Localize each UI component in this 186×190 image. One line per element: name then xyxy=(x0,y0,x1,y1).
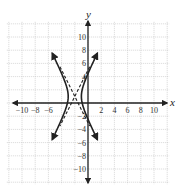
x-tick-label: 10 xyxy=(150,106,158,115)
x-axis-label: x xyxy=(169,96,175,108)
y-tick-label: 6 xyxy=(82,59,86,68)
y-tick-label: −8 xyxy=(77,152,86,161)
x-tick-label: −6 xyxy=(44,106,53,115)
x-tick-label: 2 xyxy=(99,106,103,115)
y-tick-label: 8 xyxy=(82,46,86,55)
x-tick-label: 6 xyxy=(126,106,130,115)
x-tick-label: −10 xyxy=(16,106,29,115)
y-tick-label: −4 xyxy=(77,125,86,134)
y-tick-label: 10 xyxy=(78,33,86,42)
y-tick-label: −6 xyxy=(77,139,86,148)
axes xyxy=(13,21,167,183)
x-tick-label: 4 xyxy=(112,106,116,115)
hyperbola-graph: −10−8−624681010864−2−4−6−8−10 x y xyxy=(0,0,186,190)
x-tick-label: 8 xyxy=(139,106,143,115)
hyperbola-branch xyxy=(52,53,68,139)
x-tick-label: −8 xyxy=(31,106,40,115)
y-tick-label: −10 xyxy=(73,165,86,174)
y-axis-label: y xyxy=(85,8,91,20)
